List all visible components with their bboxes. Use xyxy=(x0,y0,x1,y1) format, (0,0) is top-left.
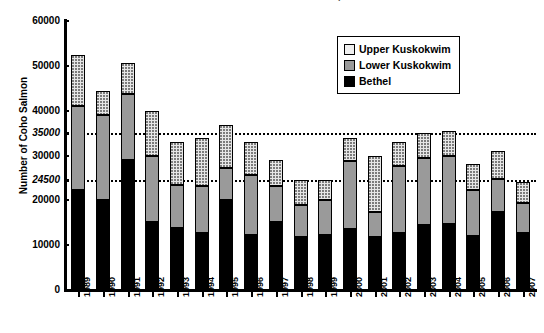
bar-segment-upper-1992[interactable] xyxy=(145,111,159,156)
bar-segment-lower-1996[interactable] xyxy=(244,175,258,235)
x-tick-label-2005: 2005 xyxy=(478,277,487,297)
bar-2000[interactable] xyxy=(343,138,357,290)
bar-segment-lower-1990[interactable] xyxy=(96,115,110,200)
x-tick-label-2003: 2003 xyxy=(429,277,438,297)
bar-segment-lower-1989[interactable] xyxy=(71,106,85,190)
chart-legend: Upper KuskokwimLower KuskokwimBethel xyxy=(337,36,460,94)
legend-label: Bethel xyxy=(359,75,391,87)
bar-segment-upper-1996[interactable] xyxy=(244,142,258,175)
bar-2004[interactable] xyxy=(442,131,456,290)
bar-segment-lower-2006[interactable] xyxy=(491,179,505,211)
bar-segment-lower-2002[interactable] xyxy=(392,166,406,232)
bar-2002[interactable] xyxy=(392,142,406,290)
x-tick-mark xyxy=(399,292,401,297)
x-tick-mark xyxy=(177,292,179,297)
legend-item-upper[interactable]: Upper Kuskokwim xyxy=(344,41,451,57)
legend-item-bethel[interactable]: Bethel xyxy=(344,73,451,89)
x-tick-label-1994: 1994 xyxy=(207,277,216,297)
x-tick-label-1998: 1998 xyxy=(306,277,315,297)
x-tick-mark xyxy=(103,292,105,297)
bar-segment-lower-1991[interactable] xyxy=(121,94,135,160)
x-tick-mark xyxy=(350,292,352,297)
bar-1997[interactable] xyxy=(269,160,283,290)
bar-segment-upper-1997[interactable] xyxy=(269,160,283,186)
bar-segment-lower-1994[interactable] xyxy=(195,186,209,232)
bar-segment-lower-1998[interactable] xyxy=(294,205,308,237)
bar-segment-upper-2005[interactable] xyxy=(466,164,480,190)
legend-swatch-icon-lower xyxy=(344,60,355,71)
bar-segment-lower-1997[interactable] xyxy=(269,186,283,222)
bar-1996[interactable] xyxy=(244,142,258,290)
bar-1995[interactable] xyxy=(219,125,233,290)
bar-segment-upper-1989[interactable] xyxy=(71,55,85,107)
bar-1990[interactable] xyxy=(96,91,110,290)
bar-segment-upper-2001[interactable] xyxy=(368,156,382,212)
bar-2003[interactable] xyxy=(417,133,431,290)
bar-segment-lower-2000[interactable] xyxy=(343,161,357,229)
bar-segment-upper-1998[interactable] xyxy=(294,180,308,205)
bar-segment-lower-2007[interactable] xyxy=(516,203,530,233)
bar-segment-upper-1995[interactable] xyxy=(219,125,233,168)
bar-segment-lower-2001[interactable] xyxy=(368,212,382,238)
bar-1992[interactable] xyxy=(145,111,159,290)
bar-segment-lower-1999[interactable] xyxy=(318,200,332,235)
bar-1994[interactable] xyxy=(195,138,209,290)
bar-segment-lower-2005[interactable] xyxy=(466,190,480,236)
x-tick-mark xyxy=(424,292,426,297)
x-tick-mark xyxy=(375,292,377,297)
x-tick-label-1996: 1996 xyxy=(256,277,265,297)
bar-segment-upper-2003[interactable] xyxy=(417,133,431,158)
bar-segment-upper-2007[interactable] xyxy=(516,182,530,202)
bar-1991[interactable] xyxy=(121,63,135,290)
chart-title: Kuskokwim River Coho Salmon Escapement xyxy=(0,0,544,1)
bar-2005[interactable] xyxy=(466,164,480,290)
x-tick-label-2007: 2007 xyxy=(528,277,537,297)
coho-salmon-stacked-bar-chart: Kuskokwim River Coho Salmon Escapement N… xyxy=(0,0,544,333)
bar-segment-bethel-1989[interactable] xyxy=(71,190,85,290)
x-tick-label-1995: 1995 xyxy=(231,277,240,297)
reference-line-label-24500: 24500 xyxy=(0,175,60,185)
bar-segment-lower-1995[interactable] xyxy=(219,168,233,200)
x-tick-mark xyxy=(325,292,327,297)
bar-1993[interactable] xyxy=(170,142,184,290)
legend-item-lower[interactable]: Lower Kuskokwim xyxy=(344,57,451,73)
bar-segment-upper-2000[interactable] xyxy=(343,138,357,161)
bar-segment-upper-2006[interactable] xyxy=(491,151,505,179)
x-tick-mark xyxy=(78,292,80,297)
bar-segment-upper-1990[interactable] xyxy=(96,91,110,116)
x-tick-mark xyxy=(202,292,204,297)
legend-label: Lower Kuskokwim xyxy=(359,59,451,71)
x-tick-label-2001: 2001 xyxy=(380,277,389,297)
bar-segment-upper-1993[interactable] xyxy=(170,142,184,185)
x-tick-mark xyxy=(473,292,475,297)
bar-segment-upper-2002[interactable] xyxy=(392,142,406,166)
bar-segment-bethel-1991[interactable] xyxy=(121,160,135,290)
bar-segment-lower-1992[interactable] xyxy=(145,156,159,222)
bar-2001[interactable] xyxy=(368,156,382,290)
bar-1998[interactable] xyxy=(294,180,308,290)
bar-segment-lower-2003[interactable] xyxy=(417,158,431,224)
x-tick-label-2002: 2002 xyxy=(404,277,413,297)
bar-segment-upper-1991[interactable] xyxy=(121,63,135,94)
x-tick-label-2004: 2004 xyxy=(454,277,463,297)
y-tick-label: 20000 xyxy=(0,195,60,205)
legend-label: Upper Kuskokwim xyxy=(359,43,451,55)
bar-segment-upper-2004[interactable] xyxy=(442,131,456,156)
bar-segment-lower-1993[interactable] xyxy=(170,185,184,228)
bar-segment-upper-1999[interactable] xyxy=(318,180,332,200)
x-tick-mark xyxy=(523,292,525,297)
bar-1989[interactable] xyxy=(71,55,85,290)
x-tick-label-2006: 2006 xyxy=(503,277,512,297)
legend-swatch-icon-bethel xyxy=(344,76,355,87)
bar-1999[interactable] xyxy=(318,180,332,290)
x-tick-label-1997: 1997 xyxy=(281,277,290,297)
x-tick-mark xyxy=(301,292,303,297)
x-tick-mark xyxy=(251,292,253,297)
reference-line-label-35000: 35000 xyxy=(0,128,60,138)
bar-segment-upper-1994[interactable] xyxy=(195,138,209,187)
bar-2006[interactable] xyxy=(491,151,505,290)
x-tick-mark xyxy=(276,292,278,297)
y-tick-label: 30000 xyxy=(0,151,60,161)
bar-segment-lower-2004[interactable] xyxy=(442,156,456,224)
bar-2007[interactable] xyxy=(516,182,530,290)
